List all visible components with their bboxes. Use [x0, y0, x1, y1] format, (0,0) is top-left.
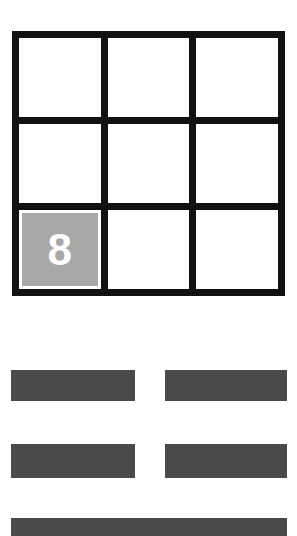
screen: 8: [0, 0, 297, 536]
grid-cell-r0c1[interactable]: [108, 38, 190, 117]
grid-cell-highlight: 8: [22, 213, 98, 286]
grid-cell-r2c0[interactable]: 8: [19, 210, 101, 289]
bar-row2-left[interactable]: [11, 444, 135, 478]
bar-wide[interactable]: [11, 518, 287, 536]
bar-row1-right[interactable]: [165, 370, 287, 401]
grid-cell-value: 8: [48, 228, 72, 272]
bar-row2-right[interactable]: [165, 444, 287, 478]
grid-cell-r1c1[interactable]: [108, 124, 190, 203]
bar-row1-left[interactable]: [11, 370, 135, 401]
grid-cell-r2c2[interactable]: [196, 210, 278, 289]
grid-cell-r0c2[interactable]: [196, 38, 278, 117]
grid-cell-r2c1[interactable]: [108, 210, 190, 289]
grid-cell-r1c0[interactable]: [19, 124, 101, 203]
grid-cell-r1c2[interactable]: [196, 124, 278, 203]
grid-cell-r0c0[interactable]: [19, 38, 101, 117]
number-grid: 8: [12, 31, 285, 296]
